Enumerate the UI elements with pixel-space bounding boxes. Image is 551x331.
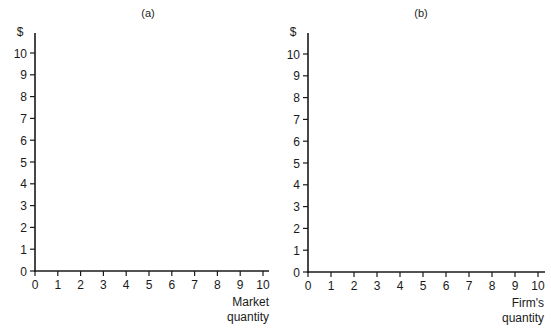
- y-tick-label: 8: [20, 90, 27, 104]
- y-tick-label: 10: [287, 48, 301, 62]
- x-tick-label: 10: [531, 279, 545, 293]
- x-tick-label: 5: [420, 279, 427, 293]
- x-tick-label: 7: [191, 278, 198, 292]
- y-tick-label: 7: [20, 112, 27, 126]
- y-tick-label: 3: [20, 199, 27, 213]
- x-tick-label: 1: [328, 279, 335, 293]
- y-tick-label: 3: [293, 200, 300, 214]
- x-axis-label: Market: [232, 295, 269, 309]
- x-tick-label: 6: [443, 279, 450, 293]
- panel-a-market: (a)$012345678910012345678910Marketquanti…: [14, 7, 270, 324]
- x-tick-label: 8: [489, 279, 496, 293]
- y-tick-label: 1: [20, 243, 27, 257]
- y-tick-label: 4: [20, 177, 27, 191]
- x-tick-label: 4: [397, 279, 404, 293]
- y-axis-label: $: [17, 25, 24, 39]
- panel-title: (b): [414, 7, 427, 19]
- x-axis-label: quantity: [227, 310, 269, 324]
- x-tick-label: 4: [123, 278, 130, 292]
- x-tick-label: 5: [146, 278, 153, 292]
- x-tick-label: 9: [512, 279, 519, 293]
- x-axis-label: quantity: [502, 311, 544, 325]
- y-tick-label: 1: [293, 244, 300, 258]
- y-tick-label: 2: [20, 221, 27, 235]
- y-tick-label: 5: [20, 156, 27, 170]
- x-axis-label: Firm's: [512, 296, 544, 310]
- x-tick-label: 10: [256, 278, 270, 292]
- y-tick-label: 6: [20, 134, 27, 148]
- y-tick-label: 2: [293, 222, 300, 236]
- x-tick-label: 2: [77, 278, 84, 292]
- y-tick-label: 8: [293, 91, 300, 105]
- panel-title: (a): [141, 7, 154, 19]
- x-tick-label: 0: [32, 278, 39, 292]
- y-axis-label: $: [290, 25, 297, 39]
- y-tick-label: 0: [293, 266, 300, 280]
- x-tick-label: 2: [351, 279, 358, 293]
- y-tick-label: 9: [293, 69, 300, 83]
- y-tick-label: 7: [293, 113, 300, 127]
- chart-canvas: (a)$012345678910012345678910Marketquanti…: [0, 0, 551, 331]
- x-tick-label: 9: [237, 278, 244, 292]
- y-tick-label: 5: [293, 157, 300, 171]
- y-tick-label: 10: [14, 47, 28, 61]
- x-tick-label: 7: [466, 279, 473, 293]
- x-tick-label: 6: [168, 278, 175, 292]
- panel-b-firm: (b)$012345678910012345678910Firm'squanti…: [287, 7, 545, 325]
- y-tick-label: 9: [20, 68, 27, 82]
- x-tick-label: 8: [214, 278, 221, 292]
- x-tick-label: 3: [100, 278, 107, 292]
- x-tick-label: 3: [374, 279, 381, 293]
- x-tick-label: 0: [305, 279, 312, 293]
- y-tick-label: 4: [293, 178, 300, 192]
- y-tick-label: 6: [293, 135, 300, 149]
- x-tick-label: 1: [54, 278, 61, 292]
- y-tick-label: 0: [20, 265, 27, 279]
